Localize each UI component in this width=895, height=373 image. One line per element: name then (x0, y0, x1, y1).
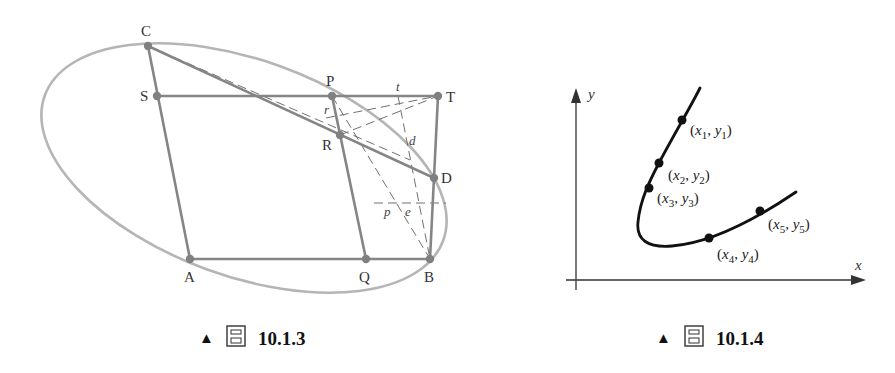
label-C: C (141, 23, 151, 39)
caption-number: 10.1.4 (716, 328, 764, 349)
figure-10-1-4: y x (x1, y1) (x2, y2) (x3, y3) (x4, y4) … (566, 86, 866, 349)
point-5 (756, 207, 765, 216)
point-1 (678, 116, 687, 125)
label-point-2: (x2, y2) (668, 167, 710, 186)
point-C (144, 42, 152, 50)
figure-char-icon (227, 326, 245, 346)
y-axis-arrow-icon (571, 88, 581, 103)
label-A: A (184, 269, 195, 285)
label-B: B (424, 269, 434, 285)
label-point-4: (x4, y4) (717, 246, 759, 265)
caption-10-1-3: ▲ 10.1.3 (199, 326, 306, 349)
point-3 (645, 184, 654, 193)
figure-char-icon (685, 326, 703, 346)
triangle-marker-icon: ▲ (656, 330, 671, 346)
label-p: p (383, 204, 391, 219)
label-P: P (326, 73, 334, 89)
point-T (434, 92, 442, 100)
label-point-1: (x1, y1) (690, 122, 732, 141)
dashed-construction-lines (148, 46, 446, 259)
point-D (430, 174, 438, 182)
figure-10-1-3: C S P T R D A Q B t r d p e ▲ 10.1.3 (8, 0, 480, 349)
label-T: T (446, 89, 455, 105)
point-A (186, 255, 194, 263)
label-t: t (396, 79, 400, 94)
point-B (426, 255, 434, 263)
triangle-marker-icon: ▲ (199, 330, 214, 346)
point-2 (655, 159, 664, 168)
label-point-3: (x3, y3) (657, 190, 699, 209)
point-P (328, 92, 336, 100)
x-axis-arrow-icon (851, 275, 866, 285)
ellipse (8, 0, 480, 342)
caption-number: 10.1.3 (258, 328, 306, 349)
label-e: e (405, 204, 411, 219)
label-R: R (322, 137, 332, 153)
label-D: D (441, 170, 452, 186)
solid-lines (148, 46, 438, 259)
point-4 (705, 234, 714, 243)
point-Q (362, 255, 370, 263)
x-axis-label: x (854, 257, 862, 273)
caption-10-1-4: ▲ 10.1.4 (656, 326, 764, 349)
axes (566, 88, 866, 290)
point-S (153, 92, 161, 100)
label-Q: Q (359, 269, 370, 285)
y-axis-label: y (586, 86, 595, 102)
label-r: r (324, 102, 330, 117)
figure-canvas: C S P T R D A Q B t r d p e ▲ 10.1.3 (0, 0, 895, 373)
points (144, 42, 442, 263)
point-R (336, 131, 344, 139)
label-d: d (409, 133, 416, 148)
label-S: S (140, 88, 148, 104)
label-point-5: (x5, y5) (768, 216, 810, 235)
